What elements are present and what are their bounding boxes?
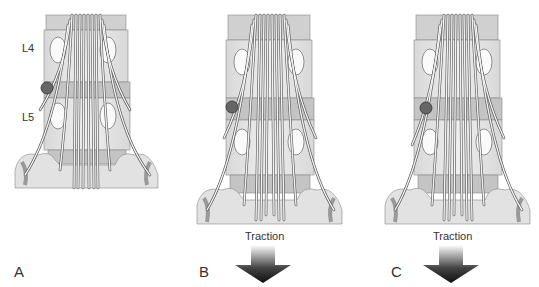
spine-illustration-b xyxy=(192,0,344,228)
lesion-icon xyxy=(226,101,238,113)
spine-illustration-a xyxy=(10,0,160,190)
traction-arrow-icon xyxy=(421,245,481,285)
panel-label-c: C xyxy=(391,263,402,280)
spine-illustration-c xyxy=(380,0,532,228)
lesion-icon xyxy=(41,82,53,94)
traction-label-c: Traction xyxy=(433,230,472,242)
lesion-icon xyxy=(420,102,432,114)
traction-label-b: Traction xyxy=(245,230,284,242)
panel-label-a: A xyxy=(14,263,24,280)
panel-a xyxy=(10,0,160,190)
traction-arrow-icon xyxy=(233,245,293,285)
panel-c xyxy=(380,0,532,228)
panel-b xyxy=(192,0,344,228)
panel-label-b: B xyxy=(199,263,209,280)
